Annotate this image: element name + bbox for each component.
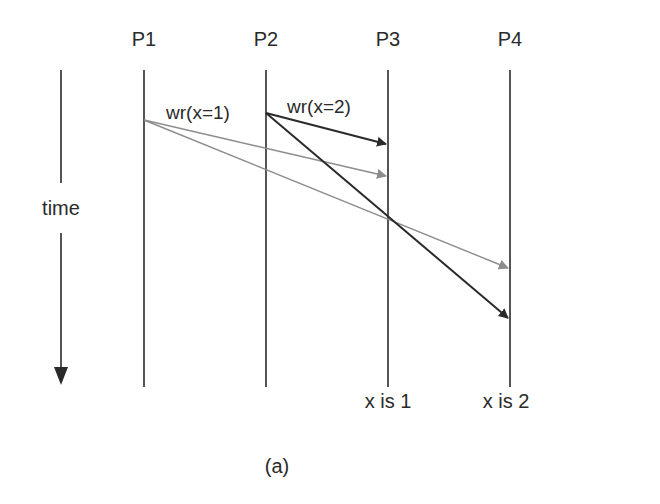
result-label-p3: x is 1	[365, 390, 412, 413]
diagram-canvas	[0, 0, 660, 504]
result-label-p4: x is 2	[483, 390, 530, 413]
process-label-p2: P2	[254, 28, 278, 51]
message-wr1-to-p4	[144, 120, 508, 268]
message-wr1-to-p3	[144, 120, 386, 176]
time-arrow-icon	[54, 367, 68, 385]
process-label-p4: P4	[498, 28, 522, 51]
time-axis-label: time	[42, 197, 80, 220]
message-label-wr2: wr(x=2)	[287, 96, 351, 118]
message-wr2-to-p4	[266, 113, 508, 318]
figure-caption: (a)	[265, 455, 289, 478]
message-label-wr1: wr(x=1)	[166, 102, 230, 124]
process-label-p3: P3	[376, 28, 400, 51]
process-label-p1: P1	[132, 28, 156, 51]
